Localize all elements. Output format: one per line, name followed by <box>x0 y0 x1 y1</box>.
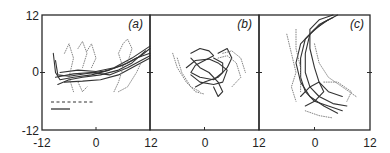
panel-frame <box>259 15 370 130</box>
panel-label-c: (c) <box>350 17 364 31</box>
solid-trajectory <box>305 15 347 106</box>
dotted-trajectory <box>65 44 74 92</box>
panel-b <box>148 15 261 130</box>
dotted-trajectory <box>78 41 87 67</box>
dotted-trajectory <box>87 44 96 68</box>
legend <box>51 102 93 109</box>
panel-label-b: (b) <box>237 17 252 31</box>
y-tick-label-top: 12 <box>26 9 40 23</box>
dotted-trajectory <box>78 82 87 92</box>
x-tick-label: 12 <box>144 136 158 150</box>
figure-canvas: 12 0 -12 -12 0 12 0 12 0 12 (a) (b) (c) <box>0 0 390 153</box>
panel-c <box>257 15 372 130</box>
dotted-trajectory <box>173 53 205 94</box>
x-tick-label: 0 <box>202 136 209 150</box>
panel-frame <box>150 15 259 130</box>
dotted-trajectory <box>287 34 296 101</box>
x-tick-label: 0 <box>312 136 319 150</box>
x-tick-label: 12 <box>363 136 377 150</box>
solid-trajectory <box>301 17 343 110</box>
x-tick-label: -12 <box>33 136 51 150</box>
dotted-trajectory <box>119 63 142 92</box>
x-tick-label: 0 <box>93 136 100 150</box>
solid-trajectory <box>301 82 324 106</box>
y-tick-label-mid: 0 <box>32 65 39 79</box>
x-tick-label: 12 <box>252 136 266 150</box>
dotted-trajectory <box>305 111 333 118</box>
panel-a <box>40 15 152 130</box>
panel-label-a: (a) <box>128 17 143 31</box>
dotted-trajectory <box>315 44 357 97</box>
